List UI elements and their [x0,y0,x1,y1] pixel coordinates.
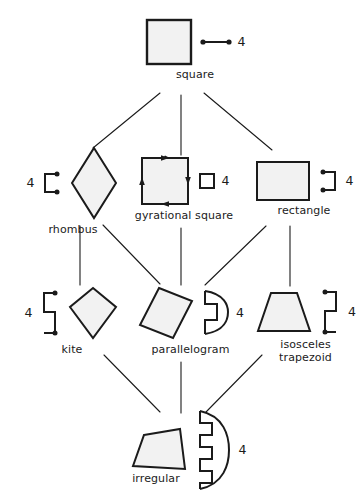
irregular-symmetry-count: 4 [239,444,247,457]
rectangle-symmetry-count: 4 [346,175,354,188]
node-rhombus-graphics: 4 [27,145,120,221]
double-bracket-reversed-two-dots-icon [319,288,343,336]
gyrational-square-symmetry-count: 4 [222,175,230,188]
quadrilateral-symmetry-diagram: 4 square 4 rhombus [0,0,364,498]
isosceles-trapezoid-symmetry-count: 4 [348,306,356,319]
parallelogram-symmetry-count: 4 [236,307,244,320]
node-irregular-label: irregular [132,473,180,486]
kite-symmetry-count: 4 [25,307,33,320]
isosceles-trapezoid-shape-icon [255,290,313,334]
node-gyrational-square-label: gyrational square [135,210,233,223]
irregular-quadrilateral-shape-icon [130,427,188,473]
double-bracket-s-two-dots-icon [37,289,61,337]
square-shape-icon [145,18,193,66]
node-irregular[interactable]: 4 irregular [118,408,258,498]
node-kite-label: kite [62,344,83,357]
parallelogram-shape-icon [137,285,195,341]
node-square[interactable]: 4 square [140,18,250,82]
node-parallelogram-label: parallelogram [152,344,230,357]
node-parallelogram-graphics: 4 [137,285,244,341]
node-kite[interactable]: 4 kite [12,285,132,357]
d-arc-with-notch-icon [195,288,231,338]
kite-shape-icon [67,285,119,341]
small-square-icon [197,171,217,191]
node-rhombus-label: rhombus [48,224,97,237]
node-isosceles-trapezoid[interactable]: 4 isosceles trapezoid [248,288,363,364]
bracket-open-left-two-dots-icon [317,168,341,194]
comb-arc-three-notches-icon [188,408,234,492]
node-rectangle-label: rectangle [278,205,331,218]
rectangle-shape-icon [255,160,311,202]
node-rhombus[interactable]: 4 rhombus [8,145,138,237]
edge-rectangle-parallelogram [205,226,266,285]
node-kite-graphics: 4 [25,285,120,341]
node-gyrational-square[interactable]: 4 gyrational square [120,155,248,223]
node-isosceles-trapezoid-graphics: 4 [255,288,356,336]
edge-kite-irregular [104,355,160,412]
node-parallelogram[interactable]: 4 parallelogram [128,285,253,357]
rhombus-symmetry-count: 4 [27,177,35,190]
line-segment-two-dots-icon [199,31,233,53]
node-square-label: square [176,69,214,82]
node-square-graphics: 4 [145,18,246,66]
edge-square-rhombus [93,93,160,148]
edge-square-rectangle [204,93,272,150]
node-rectangle[interactable]: 4 rectangle [245,160,363,218]
square-symmetry-count: 4 [238,36,246,49]
rhombus-shape-icon [69,145,119,221]
node-gyrational-square-graphics: 4 [139,155,230,207]
square-with-rotation-arrows-shape-icon [139,155,191,207]
node-isosceles-trapezoid-label: isosceles trapezoid [279,339,332,364]
node-rectangle-graphics: 4 [255,160,354,202]
bracket-open-right-two-dots-icon [39,170,63,196]
